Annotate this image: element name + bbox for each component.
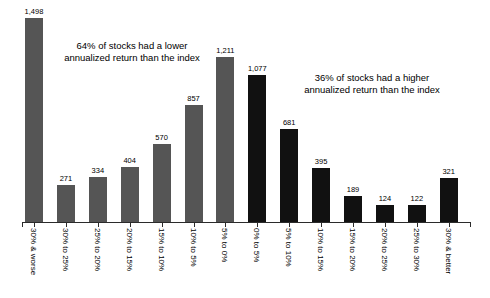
x-axis-category-label: 5% to 0% [220,228,229,262]
x-axis-category-label: 10% to 15% [316,228,325,271]
bar-value-label: 334 [92,166,105,175]
bar-value-label: 681 [283,118,296,127]
bar-value-label: 570 [155,133,168,142]
bar-value-label: 189 [347,185,360,194]
x-axis-tick [385,222,386,227]
bar-chart: 1,4982713344045708571,2111,0776813951891… [0,0,490,298]
x-axis-category-label: 30% to 25% [61,228,70,271]
x-axis-category-label: 5% to 10% [284,228,293,267]
x-axis-tick [257,222,258,227]
x-axis-tick [162,222,163,227]
bar-value-label: 321 [442,167,455,176]
bar [25,18,43,222]
bar-value-label: 271 [60,174,73,183]
bar [376,205,394,222]
bar [121,167,139,222]
bar [185,105,203,222]
x-axis-category-label: 25% to 20% [93,228,102,271]
bar [153,144,171,222]
bar [280,129,298,222]
bar-value-label: 124 [379,194,392,203]
bar [57,185,75,222]
bar [248,75,266,222]
x-axis-category-label: 20% to 25% [380,228,389,271]
x-axis-category-label: 20% to 15% [125,228,134,271]
x-axis-category-label: 30% & worse [29,228,38,275]
bar [408,205,426,222]
annotation-underperform: 64% of stocks had a lower annualized ret… [52,40,212,64]
bar-value-label: 1,077 [248,64,267,73]
x-axis-tick [98,222,99,227]
x-axis-tick [34,222,35,227]
x-axis-tick [194,222,195,227]
x-axis-tick [470,222,471,227]
x-axis-category-label: 30% & better [444,228,453,274]
x-axis-line [22,222,470,223]
bar [312,168,330,222]
x-axis-tick [225,222,226,227]
bar-value-label: 404 [123,156,136,165]
x-axis-tick [22,222,23,227]
bar [440,178,458,222]
x-axis-category-label: 25% to 30% [412,228,421,271]
x-axis-tick [353,222,354,227]
bar [216,57,234,222]
x-axis-tick [449,222,450,227]
bar-value-label: 122 [411,194,424,203]
x-axis-tick [321,222,322,227]
x-axis-category-label: 15% to 20% [348,228,357,271]
bar-value-label: 1,498 [25,7,44,16]
annotation-outperform: 36% of stocks had a higher annualized re… [292,72,452,96]
bar [89,177,107,222]
x-axis-category-label: 10% to 5% [189,228,198,267]
x-axis-category-label: 15% to 10% [157,228,166,271]
plot-area: 1,4982713344045708571,2111,0776813951891… [0,0,490,222]
x-axis-tick [289,222,290,227]
x-axis-category-label: 0% to 5% [252,228,261,262]
x-axis-tick [130,222,131,227]
bar-value-label: 857 [187,94,200,103]
x-axis-tick [417,222,418,227]
bar [344,196,362,222]
x-axis-tick [66,222,67,227]
bar-value-label: 395 [315,157,328,166]
bar-value-label: 1,211 [216,46,234,55]
